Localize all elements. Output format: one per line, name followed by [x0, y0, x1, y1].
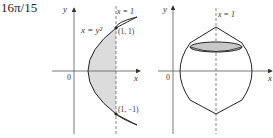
- origin-label: 0: [67, 73, 71, 82]
- washer-disk: [190, 42, 242, 52]
- origin-label: 0: [166, 73, 170, 82]
- line-label: x = 1: [116, 7, 134, 16]
- left-figure: y x 0 x = 1 x = y² (1, 1) (1, −1): [52, 4, 140, 134]
- x-axis-label: x: [133, 73, 138, 83]
- x-axis-label: x: [267, 73, 272, 83]
- point-bottom-label: (1, −1): [118, 105, 139, 114]
- y-axis-label: y: [162, 4, 167, 14]
- y-axis-label: y: [62, 4, 67, 14]
- line-label: x = 1: [217, 10, 235, 19]
- point-top-label: (1, 1): [118, 27, 135, 36]
- curve-label: x = y²: [80, 25, 103, 35]
- figures: y x 0 x = 1 x = y² (1, 1) (1, −1) y x 0 …: [0, 0, 273, 138]
- right-figure: y x 0 x = 1: [158, 4, 272, 134]
